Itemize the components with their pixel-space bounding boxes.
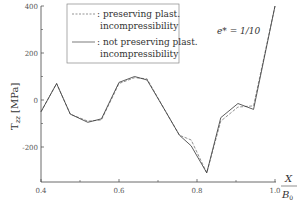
legend-item-preserving-cont: incompressibility — [100, 21, 179, 31]
x-tick-label: 0.8 — [191, 187, 202, 195]
legend-item-not-preserving-cont: incompressibility — [100, 49, 179, 59]
x-tick-label: 1.0 — [269, 187, 280, 195]
x-axis-label: X B0 — [281, 173, 297, 201]
x-tick-label: 0.6 — [113, 187, 125, 195]
svg-text:B0: B0 — [281, 189, 293, 201]
legend: : preserving plast. incompressibility : … — [67, 4, 198, 63]
x-tick-label: 0.4 — [35, 187, 47, 195]
legend-item-preserving: : preserving plast. — [97, 9, 180, 19]
y-tick-label: 0 — [34, 97, 38, 105]
legend-item-not-preserving: : not preserving plast. — [97, 37, 198, 47]
chart: -2000200400 0.40.60.81.0 : preserving pl… — [0, 0, 300, 205]
y-tick-label: -200 — [22, 144, 38, 152]
annotation: e* = 1/10 — [217, 26, 261, 36]
y-tick-label: 200 — [25, 50, 38, 58]
svg-text:X: X — [284, 173, 293, 184]
svg-text:Tzz[MPa]: Tzz[MPa] — [9, 83, 22, 130]
y-tick-label: 400 — [25, 3, 38, 11]
y-axis-label: Tzz[MPa] — [9, 83, 22, 130]
